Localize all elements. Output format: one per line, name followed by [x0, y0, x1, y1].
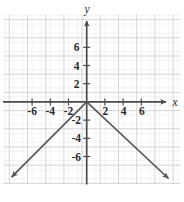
- x-axis-label: x: [171, 96, 178, 108]
- coordinate-plane-figure: -6 -4 -2 2 4 6 6 4 2 -2 -4 -6 x y: [0, 0, 184, 202]
- y-tick-label: 2: [74, 78, 80, 90]
- y-tick-label: -6: [71, 151, 81, 163]
- y-tick-label: 4: [74, 60, 80, 72]
- x-tick-label: -4: [46, 105, 56, 117]
- x-tick-label: -6: [27, 105, 37, 117]
- y-axis-label: y: [83, 3, 90, 16]
- y-tick-label: 6: [74, 41, 80, 53]
- curve-right-branch: [87, 102, 169, 179]
- x-tick-label: 4: [121, 105, 127, 117]
- figure-caption: [0, 186, 184, 202]
- graph-screenshot: -6 -4 -2 2 4 6 6 4 2 -2 -4 -6 x y: [0, 0, 184, 202]
- y-tick-label: -4: [71, 132, 81, 144]
- x-tick-label: 6: [139, 105, 145, 117]
- x-tick-label: 2: [103, 105, 109, 117]
